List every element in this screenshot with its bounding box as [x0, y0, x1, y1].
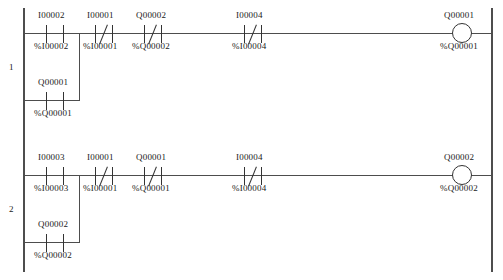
rung-1-contact-2-label: I00001 — [87, 10, 114, 20]
rung-2-contact-1-address: %I00003 — [34, 183, 68, 193]
rung-1-branch-right-riser — [79, 33, 80, 101]
rung-2-output-coil[interactable] — [452, 165, 472, 185]
rung-2-coil-label: Q00002 — [444, 152, 474, 162]
rung-1-output-coil[interactable] — [452, 23, 472, 43]
rung-2-branch-left-riser — [24, 175, 25, 243]
rung-2-contact-2-address: %I00001 — [83, 183, 117, 193]
rung-1-branch-contact-address: %Q00001 — [34, 108, 72, 118]
rung-1-coil-label: Q00001 — [444, 10, 474, 20]
rung-1-contact-4-address: %I00004 — [232, 41, 266, 51]
ladder-diagram: 1 I00002 %I00002 I00001 %I00001 Q00002 %… — [0, 0, 503, 280]
rung-number-1: 1 — [9, 62, 14, 72]
rung-2-branch-contact-label: Q00002 — [38, 219, 68, 229]
rung-1-contact-2-address: %I00001 — [83, 41, 117, 51]
rung-2-contact-1-label: I00003 — [38, 152, 65, 162]
rung-2-contact-3-address: %Q00001 — [132, 183, 170, 193]
rung-1-branch-left-riser — [24, 33, 25, 101]
rung-1-contact-1-label: I00002 — [38, 10, 65, 20]
rung-number-2: 2 — [9, 204, 14, 214]
rung-1-contact-4-label: I00004 — [236, 10, 263, 20]
rung-2-contact-4-label: I00004 — [236, 152, 263, 162]
rung-1-contact-1-address: %I00002 — [34, 41, 68, 51]
rung-1-contact-3-address: %Q00002 — [132, 41, 170, 51]
rung-2-coil-address: %Q00002 — [440, 183, 478, 193]
rung-1-coil-address: %Q00001 — [440, 41, 478, 51]
rung-2-contact-2-label: I00001 — [87, 152, 114, 162]
rung-2-contact-4-address: %I00004 — [232, 183, 266, 193]
rung-2-branch-right-riser — [79, 175, 80, 243]
rung-1-branch-contact-label: Q00001 — [38, 77, 68, 87]
rung-1-contact-3-label: Q00002 — [136, 10, 166, 20]
right-power-rail — [491, 8, 493, 272]
rung-2-branch-contact-address: %Q00002 — [34, 250, 72, 260]
rung-2-contact-3-label: Q00001 — [136, 152, 166, 162]
